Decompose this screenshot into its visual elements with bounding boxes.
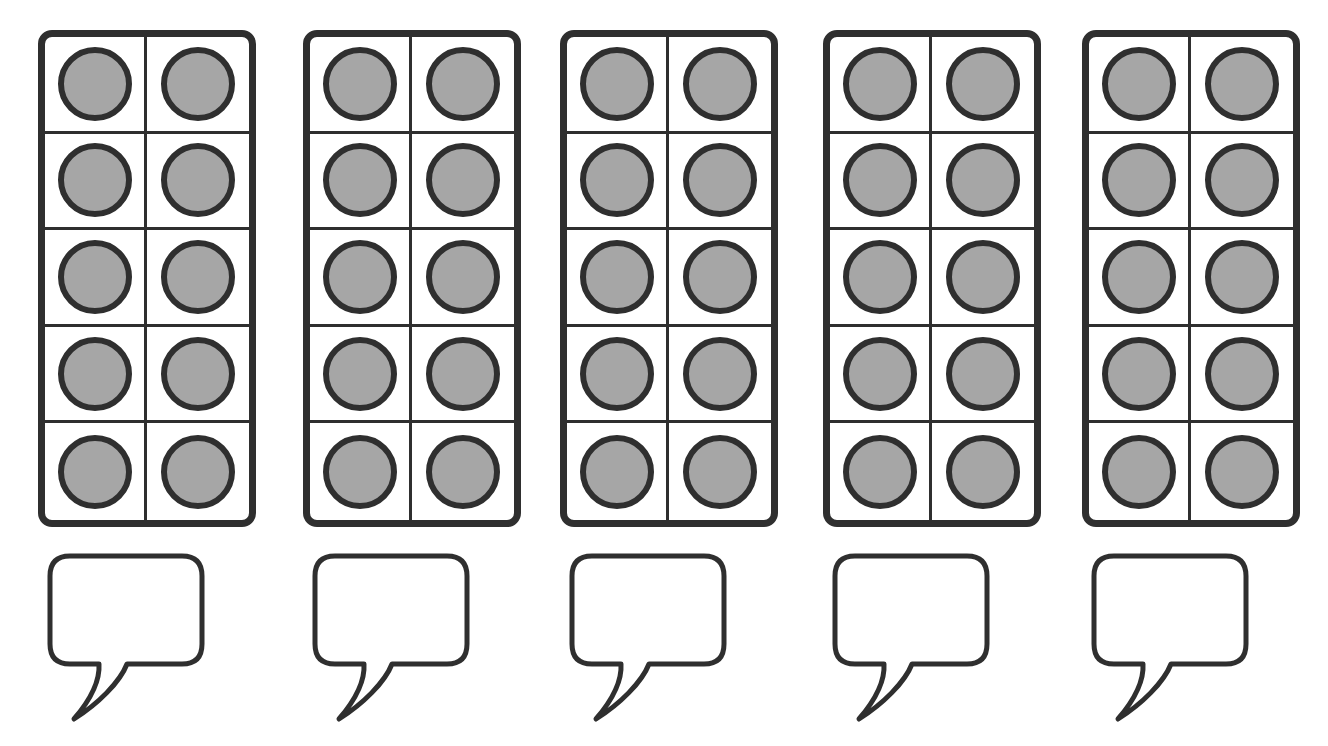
counting-group: [275, 0, 545, 746]
counter-circle: [683, 435, 757, 509]
ten-frame-cell[interactable]: [830, 327, 932, 424]
answer-speech-bubble[interactable]: [1090, 552, 1258, 728]
ten-frame-cell[interactable]: [932, 37, 1034, 134]
ten-frame-cell[interactable]: [830, 423, 932, 520]
ten-frame-cell[interactable]: [1191, 230, 1293, 327]
counter-circle: [946, 337, 1020, 411]
ten-frame-cell[interactable]: [45, 230, 147, 327]
ten-frame-cell[interactable]: [310, 37, 412, 134]
counter-circle: [323, 143, 397, 217]
ten-frame-cell[interactable]: [567, 230, 669, 327]
counter-circle: [580, 47, 654, 121]
ten-frame-cell[interactable]: [412, 327, 514, 424]
ten-frame: [38, 30, 256, 527]
ten-frame-cell[interactable]: [147, 423, 249, 520]
ten-frame-cell[interactable]: [669, 327, 771, 424]
counter-circle: [683, 337, 757, 411]
counter-circle: [1102, 143, 1176, 217]
ten-frame-cell[interactable]: [567, 423, 669, 520]
ten-frame-cell[interactable]: [1191, 37, 1293, 134]
counter-circle: [58, 240, 132, 314]
counting-group: [1054, 0, 1324, 746]
ten-frame-cell[interactable]: [310, 327, 412, 424]
ten-frame-cell[interactable]: [147, 327, 249, 424]
answer-speech-bubble[interactable]: [568, 552, 736, 728]
ten-frame-cell[interactable]: [147, 37, 249, 134]
ten-frame-cell[interactable]: [567, 327, 669, 424]
counter-circle: [426, 240, 500, 314]
counter-circle: [1102, 435, 1176, 509]
ten-frame-cell[interactable]: [1089, 423, 1191, 520]
counter-circle: [161, 435, 235, 509]
ten-frame-cell[interactable]: [45, 37, 147, 134]
ten-frame-cell[interactable]: [1191, 423, 1293, 520]
ten-frame-cell[interactable]: [830, 230, 932, 327]
counter-circle: [426, 337, 500, 411]
counter-circle: [843, 435, 917, 509]
ten-frame-cell[interactable]: [1191, 134, 1293, 231]
counter-circle: [946, 143, 1020, 217]
ten-frame: [823, 30, 1041, 527]
ten-frame-cell[interactable]: [310, 230, 412, 327]
counter-circle: [946, 435, 1020, 509]
counter-circle: [58, 143, 132, 217]
ten-frame-cell[interactable]: [932, 134, 1034, 231]
ten-frame-cell[interactable]: [1191, 327, 1293, 424]
ten-frame-cell[interactable]: [830, 37, 932, 134]
ten-frame-cell[interactable]: [412, 134, 514, 231]
ten-frame-cell[interactable]: [669, 423, 771, 520]
ten-frame-cell[interactable]: [45, 327, 147, 424]
counter-circle: [946, 240, 1020, 314]
counter-circle: [683, 143, 757, 217]
counter-circle: [1102, 337, 1176, 411]
ten-frame-cell[interactable]: [1089, 134, 1191, 231]
ten-frame-cell[interactable]: [147, 230, 249, 327]
ten-frame-cell[interactable]: [310, 423, 412, 520]
ten-frame-cell[interactable]: [830, 134, 932, 231]
ten-frame-cell[interactable]: [1089, 327, 1191, 424]
counter-circle: [1102, 47, 1176, 121]
counter-circle: [161, 143, 235, 217]
speech-bubble-icon: [1090, 552, 1258, 728]
counter-circle: [843, 337, 917, 411]
ten-frame-cell[interactable]: [412, 37, 514, 134]
counter-circle: [843, 240, 917, 314]
ten-frame-cell[interactable]: [567, 134, 669, 231]
ten-frame: [303, 30, 521, 527]
counter-circle: [323, 240, 397, 314]
counter-circle: [323, 435, 397, 509]
counting-group: [10, 0, 280, 746]
counter-circle: [843, 47, 917, 121]
counter-circle: [161, 337, 235, 411]
ten-frame-cell[interactable]: [412, 230, 514, 327]
counter-circle: [323, 337, 397, 411]
counter-circle: [580, 240, 654, 314]
ten-frame-cell[interactable]: [932, 423, 1034, 520]
speech-bubble-outline: [835, 556, 987, 719]
ten-frame-cell[interactable]: [1089, 37, 1191, 134]
answer-speech-bubble[interactable]: [46, 552, 214, 728]
ten-frame-cell[interactable]: [669, 134, 771, 231]
answer-speech-bubble[interactable]: [311, 552, 479, 728]
ten-frame-cell[interactable]: [45, 423, 147, 520]
speech-bubble-icon: [311, 552, 479, 728]
ten-frame-cell[interactable]: [669, 230, 771, 327]
counter-circle: [1205, 435, 1279, 509]
ten-frame-cell[interactable]: [567, 37, 669, 134]
ten-frame: [1082, 30, 1300, 527]
worksheet-canvas: [0, 0, 1328, 746]
ten-frame-cell[interactable]: [1089, 230, 1191, 327]
ten-frame-cell[interactable]: [669, 37, 771, 134]
ten-frame-cell[interactable]: [310, 134, 412, 231]
ten-frame-cell[interactable]: [147, 134, 249, 231]
ten-frame-cell[interactable]: [45, 134, 147, 231]
speech-bubble-outline: [315, 556, 467, 719]
answer-speech-bubble[interactable]: [831, 552, 999, 728]
counter-circle: [161, 47, 235, 121]
speech-bubble-icon: [831, 552, 999, 728]
ten-frame-cell[interactable]: [412, 423, 514, 520]
ten-frame-cell[interactable]: [932, 230, 1034, 327]
counter-circle: [426, 47, 500, 121]
counter-circle: [161, 240, 235, 314]
ten-frame-cell[interactable]: [932, 327, 1034, 424]
